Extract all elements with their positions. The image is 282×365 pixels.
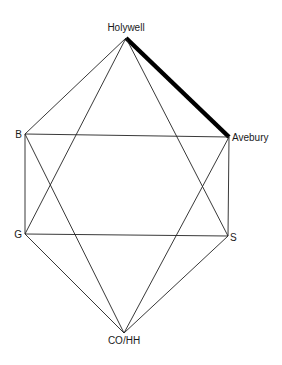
edge-b-cohh [25, 134, 124, 333]
edge-s-cohh [124, 236, 228, 333]
labels-group: HolywellBAveburyGSCO/HH [14, 22, 268, 346]
node-label-b: B [15, 129, 22, 140]
node-label-holywell: Holywell [107, 22, 144, 33]
edge-g-cohh [25, 234, 124, 333]
edges-group [25, 38, 229, 333]
network-diagram: HolywellBAveburyGSCO/HH [0, 0, 282, 365]
node-label-g: G [14, 229, 22, 240]
node-label-s: S [230, 232, 237, 243]
node-label-cohh: CO/HH [108, 335, 140, 346]
edge-b-avebury [25, 134, 229, 137]
edge-holywell-g [25, 38, 126, 234]
edge-holywell-avebury [126, 38, 229, 137]
edge-g-s [25, 234, 228, 236]
edge-avebury-s [228, 137, 229, 236]
node-label-avebury: Avebury [232, 132, 269, 143]
edge-holywell-b [25, 38, 126, 134]
